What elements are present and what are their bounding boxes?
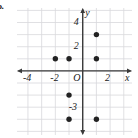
problem-label: b.: [0, 1, 3, 11]
plot-area: -4-2O242-3xy: [17, 8, 132, 135]
coordinate-plane-figure: b. -4-2O242-3xy: [0, 0, 138, 138]
data-points-layer: [17, 8, 132, 135]
